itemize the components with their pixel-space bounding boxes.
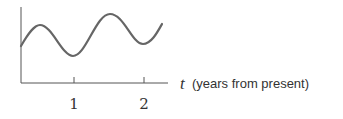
x-tick-label-1: 1 [69, 95, 79, 113]
x-tick-label-2: 2 [139, 95, 149, 113]
data-curve [21, 14, 162, 56]
x-axis-variable: t [180, 74, 186, 93]
x-axis-label: (years from present) [192, 76, 309, 91]
chart: 1 2 t (years from present) [0, 0, 343, 119]
